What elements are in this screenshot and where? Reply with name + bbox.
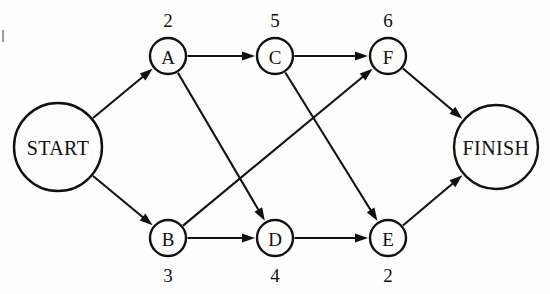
node-b-label: B bbox=[162, 229, 175, 250]
arrowhead bbox=[254, 207, 264, 220]
edge-c-to-e bbox=[285, 73, 377, 221]
nodes-layer: STARTACFBDEFINISH bbox=[14, 38, 538, 256]
edge-b-to-f bbox=[183, 69, 373, 226]
arrowhead bbox=[355, 52, 368, 61]
node-a[interactable]: A bbox=[150, 38, 186, 74]
edge-f-to-finish bbox=[403, 69, 462, 119]
duration-label-e: 2 bbox=[383, 265, 393, 286]
edge-c-to-f bbox=[295, 52, 369, 61]
edge-start-to-a bbox=[93, 69, 153, 118]
duration-label-a: 2 bbox=[163, 10, 173, 31]
arrowhead bbox=[242, 234, 255, 243]
network-diagram-canvas: STARTACFBDEFINISH 256342 bbox=[0, 0, 550, 294]
arrowhead bbox=[355, 234, 368, 243]
edge-a-to-d bbox=[178, 73, 265, 221]
node-f[interactable]: F bbox=[370, 38, 406, 74]
edge-b-to-d bbox=[188, 234, 256, 243]
arrowhead bbox=[242, 52, 255, 61]
node-b[interactable]: B bbox=[150, 220, 186, 256]
node-finish[interactable]: FINISH bbox=[454, 105, 538, 189]
node-start-label: START bbox=[27, 137, 90, 159]
node-e-label: E bbox=[382, 229, 394, 250]
duration-label-c: 5 bbox=[270, 10, 280, 31]
node-start[interactable]: START bbox=[14, 103, 102, 191]
node-d-label: D bbox=[268, 229, 282, 250]
duration-label-f: 6 bbox=[383, 10, 393, 31]
node-f-label: F bbox=[383, 47, 394, 68]
edge-start-to-b bbox=[93, 176, 153, 225]
duration-label-b: 3 bbox=[163, 265, 173, 286]
arrowhead bbox=[367, 208, 378, 221]
edge-a-to-c bbox=[188, 52, 256, 61]
edges-layer bbox=[93, 52, 462, 243]
node-d[interactable]: D bbox=[257, 220, 293, 256]
node-finish-label: FINISH bbox=[463, 137, 530, 159]
node-c-label: C bbox=[269, 47, 282, 68]
node-a-label: A bbox=[161, 47, 175, 68]
edge-d-to-e bbox=[295, 234, 369, 243]
edge-e-to-finish bbox=[403, 175, 462, 225]
duration-label-d: 4 bbox=[270, 265, 280, 286]
node-e[interactable]: E bbox=[370, 220, 406, 256]
network-diagram-svg: STARTACFBDEFINISH 256342 bbox=[0, 0, 550, 294]
node-c[interactable]: C bbox=[257, 38, 293, 74]
